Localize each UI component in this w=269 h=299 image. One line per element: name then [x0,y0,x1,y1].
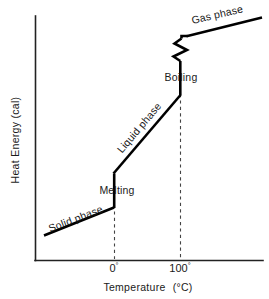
annotation-boiling: Boiling [165,71,198,83]
x-axis-title: Temperature(°C) [103,281,192,293]
chart-canvas: 0° 100° Temperature(°C) Heat Energy (cal… [0,0,269,299]
x-tick-100-value: 100 [169,262,187,274]
annotation-liquid-phase: Liquid phase [114,100,163,155]
curve-boiling-axis-break-zigzag [174,39,188,62]
curve-liquid-phase [114,95,181,174]
x-tick-100-degree: ° [188,261,191,270]
heating-curve-chart: 0° 100° Temperature(°C) Heat Energy (cal… [0,0,269,299]
annotation-melting: Melting [99,184,134,196]
x-tick-label-100deg: 100° [169,261,190,275]
y-axis-title: Heat Energy (cal) [9,97,21,184]
x-tick-label-0deg: 0° [109,261,118,275]
x-axis-title-main: Temperature [103,281,165,293]
x-axis-title-unit: (°C) [173,281,193,293]
annotation-solid-phase: Solid phase [47,202,105,234]
x-tick-0-degree: ° [116,261,119,270]
annotation-gas-phase: Gas phase [190,2,244,26]
